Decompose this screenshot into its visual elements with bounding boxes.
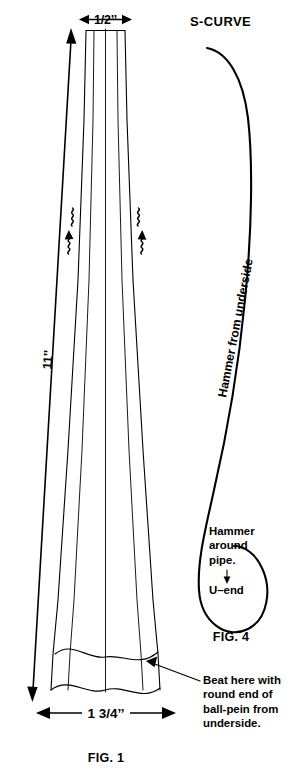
bottom-width-arrow-right: [162, 707, 176, 719]
length-dimension-arrow-bottom: [27, 687, 37, 702]
beat-here-note: Beat here with round end of ball-pein fr…: [203, 673, 293, 731]
blade-right-inner-edge: [117, 31, 143, 690]
squiggle-right-lower-arrowhead: [138, 230, 147, 240]
bottom-width-dimension-label: 1 3/4’’: [87, 706, 124, 721]
hammer-around-pipe-note: Hammer around pipe.: [209, 524, 289, 567]
top-width-arrow-left: [79, 15, 89, 24]
figure-canvas: 11’’ 1/2’’ 1 3/4’’ FIG. 1 S-CURVE Hamm: [0, 0, 293, 777]
blade-left-outer-edge: [51, 31, 86, 690]
blade-right-outer-edge: [125, 31, 160, 690]
fig1-caption: FIG. 1: [88, 751, 125, 765]
squiggle-left-lower-arrowhead: [65, 230, 74, 240]
technical-diagram-root: 11’’ 1/2’’ 1 3/4’’ FIG. 1 S-CURVE Hamm: [0, 0, 293, 777]
squiggle-right-upper: [137, 208, 139, 226]
top-width-dimension-label: 1/2’’: [94, 13, 117, 27]
scurve-title: S-CURVE: [190, 14, 251, 29]
blade-left-inner-edge: [68, 31, 94, 690]
u-end-label: U–end: [209, 583, 289, 597]
bottom-width-arrow-left: [36, 707, 50, 719]
top-width-arrow-right: [122, 15, 132, 24]
fig4-caption: FIG. 4: [213, 630, 250, 644]
squiggle-left-upper: [71, 208, 73, 226]
length-dimension-arrow-top: [66, 28, 76, 44]
length-dimension-label: 11’’: [40, 350, 55, 370]
